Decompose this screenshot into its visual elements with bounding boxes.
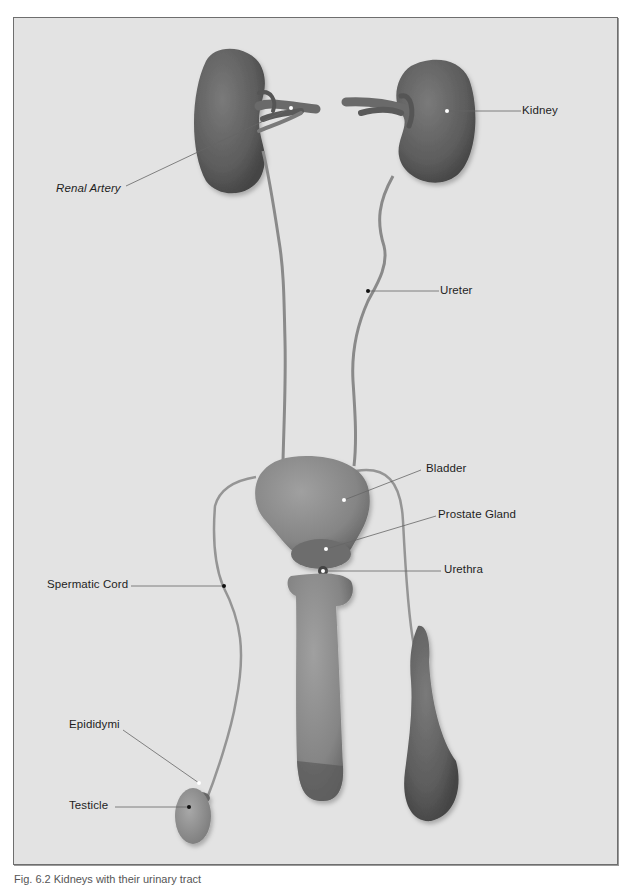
penis [288, 574, 353, 801]
label-urethra: Urethra [444, 563, 483, 575]
left-spermatic-cord [206, 477, 256, 801]
prostate [291, 539, 351, 569]
anatomical-specimen-illustration [14, 18, 617, 864]
label-epididymi: Epididymi [69, 718, 120, 730]
left-kidney [194, 49, 265, 194]
label-spermatic-cord: Spermatic Cord [47, 578, 128, 590]
left-ureter [263, 151, 285, 461]
label-ureter: Ureter [440, 284, 473, 296]
figure-frame: Kidney Renal Artery Ureter Bladder Prost… [13, 17, 618, 865]
scrotum-specimen [404, 626, 458, 821]
left-renal-vessels [259, 92, 316, 131]
figure-caption: Fig. 6.2 Kidneys with their urinary trac… [14, 873, 201, 885]
right-ureter [353, 176, 393, 466]
label-prostate-gland: Prostate Gland [438, 508, 516, 520]
label-kidney: Kidney [522, 104, 558, 116]
testicle-specimen [175, 788, 211, 844]
label-renal-artery: Renal Artery [56, 182, 121, 194]
label-testicle: Testicle [69, 799, 108, 811]
label-bladder: Bladder [426, 462, 466, 474]
